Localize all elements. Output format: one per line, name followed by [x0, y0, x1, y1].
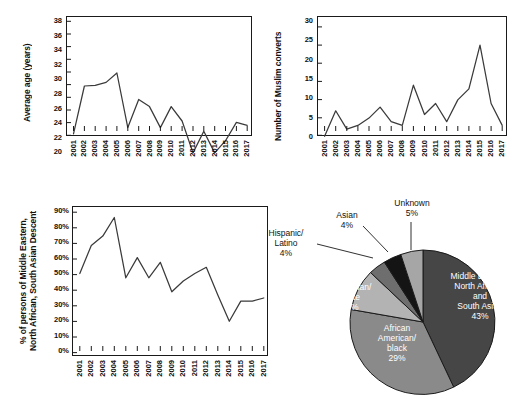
- x-tickmarks-average-age: [66, 126, 252, 136]
- x-tick: 2004: [353, 140, 362, 157]
- x-tick: 2008: [397, 140, 406, 157]
- y-tick: 32: [40, 60, 62, 69]
- y-tickmarks-muslim-converts: [317, 16, 325, 136]
- y-tick: 34: [40, 45, 62, 54]
- y-tick: 28: [40, 89, 62, 98]
- chart-panel-average-age: Average age (years) 38 36 34 32 30 28 26…: [0, 0, 261, 201]
- pie-value: 43%: [471, 311, 488, 321]
- y-tick: 0%: [42, 346, 69, 355]
- y-axis-label-line2: North African, South Asian Descent: [28, 206, 38, 356]
- x-tick: 2009: [408, 140, 417, 157]
- x-tick: 2003: [342, 140, 351, 157]
- plot-area-average-age: [66, 16, 252, 136]
- y-tick: 30: [40, 74, 62, 83]
- line-series-percent-mena: [73, 207, 269, 357]
- y-tick: 38: [40, 16, 62, 25]
- x-tick: 2011: [190, 360, 199, 376]
- x-tick: 2010: [166, 140, 175, 157]
- x-tick: 2012: [201, 360, 210, 377]
- x-tick: 2016: [231, 140, 240, 157]
- pie-value: 29%: [388, 353, 405, 363]
- chart-panel-ethnicity-pie: Middle Eastern, North African, and South…: [255, 196, 522, 402]
- x-tick: 2017: [242, 140, 251, 157]
- x-tick: 2006: [132, 360, 141, 377]
- pie-label-african-american: African American/ black 29%: [363, 323, 431, 363]
- x-tick: 2003: [98, 360, 107, 377]
- x-tick: 2005: [364, 140, 373, 157]
- x-tick: 2007: [386, 140, 395, 157]
- x-tick: 2011: [177, 140, 186, 156]
- x-tick: 2005: [121, 360, 130, 377]
- y-tick: 90%: [42, 206, 69, 215]
- y-tick: 5: [291, 113, 313, 122]
- y-tick: 25: [291, 35, 313, 44]
- x-tick: 2004: [109, 360, 118, 377]
- y-tick: 80%: [42, 222, 69, 231]
- pie-value: 15%: [341, 302, 358, 312]
- x-tick: 2014: [210, 140, 219, 157]
- x-tick: 2003: [90, 140, 99, 157]
- x-tick: 2001: [320, 140, 329, 157]
- y-tick: 50%: [42, 268, 69, 277]
- pie-label-line: African: [384, 323, 410, 333]
- y-tick: 30%: [42, 300, 69, 309]
- y-tick: 15: [291, 74, 313, 83]
- pie-value: 4%: [341, 220, 353, 230]
- pie-label-line: Hispanic/: [269, 228, 304, 238]
- pie-label-hispanic-latino: Hispanic/ Latino 4%: [255, 228, 317, 258]
- line-series-muslim-converts: [318, 17, 508, 137]
- pie-label-line: Middle Eastern,: [450, 271, 509, 281]
- y-tick: 30: [291, 16, 313, 25]
- y-tick-labels-muslim-converts: 30 25 20 15 10 5 0: [291, 20, 313, 152]
- x-tick: 2006: [375, 140, 384, 157]
- plot-area-muslim-converts: [317, 16, 507, 136]
- y-tick-labels-average-age: 38 36 34 32 30 28 26 24 22 20: [40, 20, 62, 152]
- pie-value: 4%: [280, 248, 292, 258]
- line-series-average-age: [67, 17, 253, 137]
- pie-label-line: black: [387, 343, 407, 353]
- x-tick: 2010: [420, 140, 429, 157]
- x-tick: 2014: [224, 360, 233, 377]
- pie-label-line: Asian: [336, 210, 357, 220]
- x-tick: 2002: [86, 360, 95, 377]
- pie-label-line: and: [473, 291, 487, 301]
- x-tick: 2013: [199, 140, 208, 157]
- x-tick: 2011: [431, 140, 440, 156]
- x-tick: 2017: [497, 140, 506, 157]
- pie-label-line: Unknown: [394, 198, 429, 208]
- y-tick: 20: [291, 55, 313, 64]
- x-tick: 2007: [144, 360, 153, 377]
- pie-label-caucasian: Caucasian/ white 15%: [317, 282, 383, 312]
- pie-label-line: Caucasian/: [329, 282, 372, 292]
- y-tick: 22: [40, 133, 62, 142]
- y-axis-label-line1: % of persons of Middle Eastern,: [18, 206, 28, 356]
- y-tick: 20%: [42, 315, 69, 324]
- x-tick: 2010: [178, 360, 187, 377]
- x-tick: 2008: [145, 140, 154, 157]
- x-tick: 2013: [213, 360, 222, 377]
- pie-label-unknown: Unknown 5%: [381, 198, 443, 218]
- y-tick: 60%: [42, 253, 69, 262]
- y-axis-label-percent-mena: % of persons of Middle Eastern, North Af…: [18, 206, 40, 356]
- y-tick: 0: [291, 132, 313, 141]
- pie-label-line: American/: [378, 333, 416, 343]
- x-tick: 2009: [155, 140, 164, 157]
- x-tick: 2015: [221, 140, 230, 157]
- y-tick: 70%: [42, 237, 69, 246]
- x-tick-labels-percent-mena: 2001 2002 2003 2004 2005 2006 2007 2008 …: [72, 360, 268, 400]
- x-tick: 2008: [155, 360, 164, 377]
- y-tick: 40%: [42, 284, 69, 293]
- y-tick: 10: [291, 93, 313, 102]
- x-tick: 2014: [464, 140, 473, 157]
- pie-label-middle-eastern: Middle Eastern, North African, and South…: [437, 271, 522, 321]
- x-tick-labels-average-age: 2001 2002 2003 2004 2005 2006 2007 2008 …: [66, 140, 252, 180]
- x-tick: 2016: [486, 140, 495, 157]
- x-tick-labels-muslim-converts: 2001 2002 2003 2004 2005 2006 2007 2008 …: [317, 140, 507, 180]
- x-tick: 2002: [79, 140, 88, 157]
- y-tick: 10%: [42, 331, 69, 340]
- x-tick: 2012: [188, 140, 197, 157]
- plot-area-percent-mena: [72, 206, 268, 356]
- x-tick: 2001: [75, 360, 84, 377]
- x-tick: 2005: [112, 140, 121, 157]
- x-tick: 2002: [331, 140, 340, 157]
